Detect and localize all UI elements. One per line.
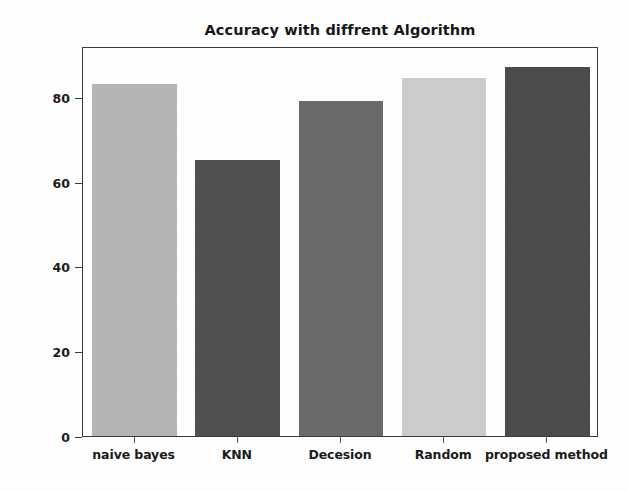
y-tick-label: 60	[30, 175, 70, 190]
x-tick-label-decesion: Decesion	[308, 447, 371, 462]
x-tick-mark	[340, 437, 341, 443]
y-tick-label: 40	[30, 260, 70, 275]
chart-title: Accuracy with diffrent Algorithm	[82, 22, 598, 38]
bar-random	[402, 78, 487, 436]
y-tick-label: 0	[30, 430, 70, 445]
bar-knn	[195, 160, 280, 436]
x-tick-label-knn: KNN	[222, 447, 252, 462]
y-tick-mark	[75, 98, 82, 99]
bar-decesion	[299, 101, 384, 436]
bars-layer	[83, 48, 597, 436]
y-tick-label: 80	[30, 90, 70, 105]
y-tick-label: 20	[30, 345, 70, 360]
y-tick-mark	[75, 267, 82, 268]
x-tick-mark	[134, 437, 135, 443]
x-tick-mark	[546, 437, 547, 443]
y-tick-mark	[75, 437, 82, 438]
bar-naive-bayes	[92, 84, 177, 436]
y-tick-mark	[75, 183, 82, 184]
x-tick-label-random: Random	[415, 447, 472, 462]
x-tick-mark	[443, 437, 444, 443]
x-tick-label-naive-bayes: naive bayes	[92, 447, 175, 462]
x-tick-mark	[237, 437, 238, 443]
bar-proposed-method	[505, 67, 590, 436]
y-tick-mark	[75, 352, 82, 353]
plot-area	[82, 47, 598, 437]
x-tick-label-proposed-method: proposed method	[485, 447, 608, 462]
chart-figure: Accuracy with diffrent Algorithm Accurac…	[0, 0, 628, 491]
